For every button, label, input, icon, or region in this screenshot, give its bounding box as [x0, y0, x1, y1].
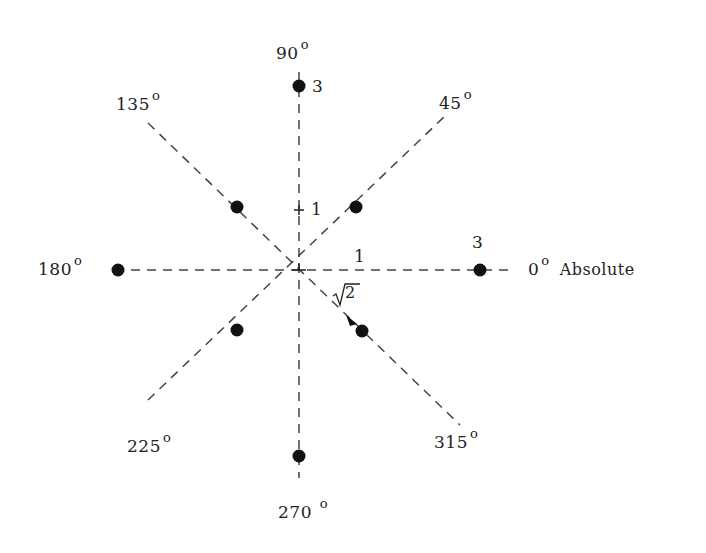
axis-135-315	[148, 123, 460, 425]
point-315	[356, 325, 369, 338]
label-unit-0: 1	[354, 246, 365, 266]
label-135: 135o	[116, 94, 160, 114]
label-point-90: 3	[312, 76, 323, 96]
label-45: 45o	[439, 93, 472, 113]
label-absolute: Absolute	[560, 260, 635, 279]
point-270	[293, 450, 306, 463]
label-315: 315o	[434, 432, 478, 452]
point-180	[112, 264, 125, 277]
label-225: 225o	[127, 436, 171, 456]
arrow-head-icon	[346, 315, 357, 326]
label-sqrt2: 2	[345, 283, 356, 302]
label-180: 180o	[38, 259, 82, 279]
label-0: 0oAbsolute	[528, 259, 635, 279]
axis-45-225	[148, 117, 444, 400]
label-point-0: 3	[472, 232, 483, 252]
point-90	[293, 80, 306, 93]
point-135	[231, 201, 244, 214]
unit-tick-90	[294, 205, 304, 215]
label-270: 270 o	[278, 502, 328, 522]
label-90: 90o	[276, 43, 309, 63]
origin-mark	[292, 263, 306, 270]
point-225	[231, 324, 244, 337]
point-0	[474, 264, 487, 277]
point-45	[350, 201, 363, 214]
label-unit-90: 1	[311, 199, 322, 219]
